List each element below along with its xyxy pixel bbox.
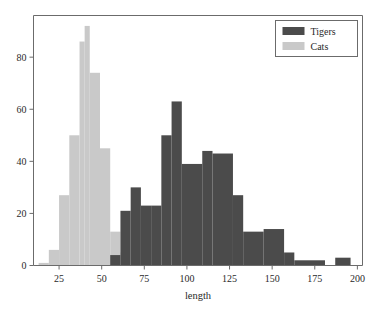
x-tick-label: 75: [139, 273, 149, 284]
histogram-bar: [110, 255, 120, 265]
histogram-bar: [85, 26, 90, 266]
legend-label: Cats: [311, 41, 329, 52]
x-tick-label: 175: [307, 273, 322, 284]
histogram-bar: [141, 206, 151, 266]
y-tick-label: 20: [17, 208, 27, 219]
legend-swatch: [283, 27, 305, 35]
histogram-bar: [182, 164, 202, 266]
x-tick-label: 150: [265, 273, 280, 284]
x-tick-label: 200: [350, 273, 365, 284]
histogram-bar: [90, 73, 100, 266]
histogram-bar: [161, 135, 171, 265]
histogram-bar: [59, 195, 69, 265]
y-tick-label: 80: [17, 52, 27, 63]
histogram-bar: [212, 154, 232, 266]
x-tick-label: 125: [222, 273, 237, 284]
x-tick-label: 100: [179, 273, 194, 284]
histogram-bar: [264, 229, 284, 265]
histogram-bar: [49, 250, 59, 266]
legend-swatch: [283, 42, 305, 50]
histogram-bar: [335, 258, 350, 266]
histogram-figure: 255075100125150175200 020406080 length T…: [0, 0, 378, 314]
chart-legend: TigersCats: [276, 21, 358, 57]
x-tick-label: 25: [54, 273, 64, 284]
legend-label: Tigers: [311, 26, 336, 37]
histogram-bar: [284, 252, 294, 265]
y-tick-label: 40: [17, 156, 27, 167]
y-tick-label: 60: [17, 104, 27, 115]
x-tick-label: 50: [97, 273, 107, 284]
histogram-bar: [120, 211, 130, 266]
histogram-bar: [151, 206, 161, 266]
y-tick-label: 0: [22, 260, 27, 271]
histogram-bar: [243, 232, 263, 266]
histogram-bar: [69, 135, 79, 265]
histogram-chart: 255075100125150175200 020406080 length T…: [0, 0, 378, 314]
histogram-bar: [233, 195, 243, 265]
histogram-bar: [202, 151, 212, 266]
x-axis-title: length: [185, 290, 212, 301]
histogram-bar: [131, 187, 141, 265]
histogram-bar: [80, 42, 85, 266]
histogram-bar: [172, 101, 182, 265]
histogram-bar: [294, 260, 325, 265]
histogram-bar: [100, 148, 110, 265]
